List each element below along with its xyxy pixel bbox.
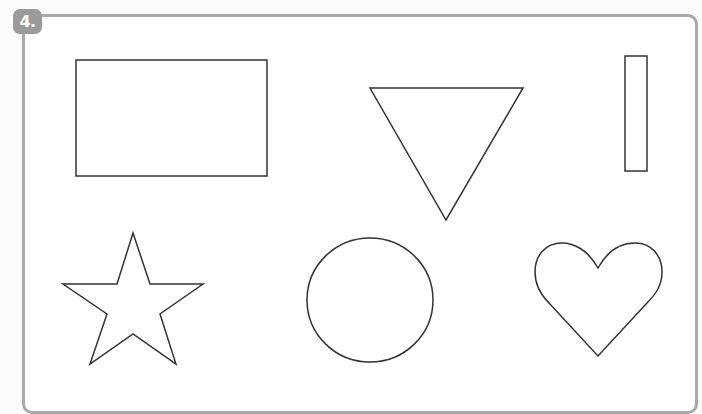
- star-shape: [63, 233, 203, 364]
- circle-shape: [307, 238, 433, 362]
- rectangle-shape: [76, 60, 267, 176]
- heart-shape: [535, 243, 662, 356]
- triangle-shape: [370, 88, 523, 220]
- narrow-rectangle-shape: [625, 56, 647, 171]
